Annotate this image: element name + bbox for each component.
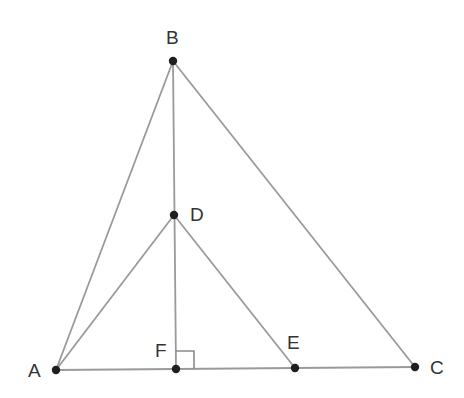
point-c xyxy=(411,363,419,371)
point-d xyxy=(170,211,178,219)
label-d: D xyxy=(190,204,204,225)
points-group xyxy=(52,57,419,374)
label-e: E xyxy=(287,332,300,353)
segment-ab xyxy=(56,61,173,370)
segment-ac xyxy=(56,367,415,370)
labels-group: ABCDEF xyxy=(28,27,444,381)
geometry-diagram: ABCDEF xyxy=(0,0,464,398)
segment-de xyxy=(174,215,295,368)
point-e xyxy=(291,364,299,372)
label-c: C xyxy=(430,357,444,378)
segment-bc xyxy=(173,61,415,367)
label-b: B xyxy=(166,27,179,48)
segments-group xyxy=(56,61,415,370)
label-a: A xyxy=(28,360,41,381)
point-f xyxy=(172,365,180,373)
point-b xyxy=(169,57,177,65)
label-f: F xyxy=(155,340,167,361)
point-a xyxy=(52,366,60,374)
